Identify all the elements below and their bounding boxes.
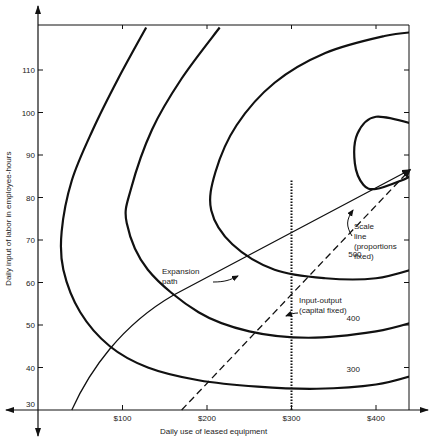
y-axis-down-arrow	[35, 428, 41, 437]
x-axis-left-arrow	[5, 407, 14, 413]
annotation-expansion-path: Expansionpath	[162, 267, 199, 286]
y-tick-label: 90	[26, 151, 35, 160]
x-tick-label: $400	[367, 414, 385, 423]
annotation-scale-line: Scaleline(proportionsfixed)	[354, 222, 397, 261]
isoquant-chart: $100$200$300$40040506070809010011030 Dai…	[0, 0, 434, 441]
annotation-line: (capital fixed)	[299, 306, 347, 315]
isoquant-400	[126, 28, 419, 338]
annotation-arrow	[213, 276, 238, 282]
y-tick-label: 40	[26, 364, 35, 373]
isoquant-300	[61, 28, 418, 389]
annotation-line: fixed)	[354, 252, 374, 261]
y-tick-label: 60	[26, 279, 35, 288]
annotation-line: Expansion	[162, 267, 199, 276]
annotation-line: path	[162, 277, 178, 286]
y-axis-title: Daily input of labor in employee-hours	[4, 152, 13, 286]
expansion-path	[72, 170, 410, 410]
annotation-line: Scale	[354, 222, 375, 231]
x-tick-label: $300	[283, 414, 301, 423]
y-tick-label: 110	[22, 66, 35, 75]
annotation-input-output: Input-output(capital fixed)	[299, 296, 347, 315]
y-tick-label: 100	[22, 109, 36, 118]
x-axis-right-arrow	[420, 407, 429, 413]
annotation-arrow	[348, 210, 353, 236]
y-tick-label: 70	[26, 236, 35, 245]
y-origin-label: 30	[26, 400, 35, 409]
isoquant-label-300: 300	[347, 365, 361, 374]
y-tick-label: 50	[26, 321, 35, 330]
y-tick-label: 80	[26, 194, 35, 203]
annotation-line: (proportions	[354, 242, 397, 251]
isoquant-label-400: 400	[347, 314, 361, 323]
scale-line	[182, 170, 410, 410]
x-axis-title: Daily use of leased equipment	[160, 427, 268, 436]
y-axis-up-arrow	[35, 5, 41, 14]
x-tick-label: $100	[114, 414, 132, 423]
x-tick-label: $200	[198, 414, 216, 423]
annotation-line: Input-output	[299, 296, 342, 305]
annotation-line: line	[354, 232, 367, 241]
